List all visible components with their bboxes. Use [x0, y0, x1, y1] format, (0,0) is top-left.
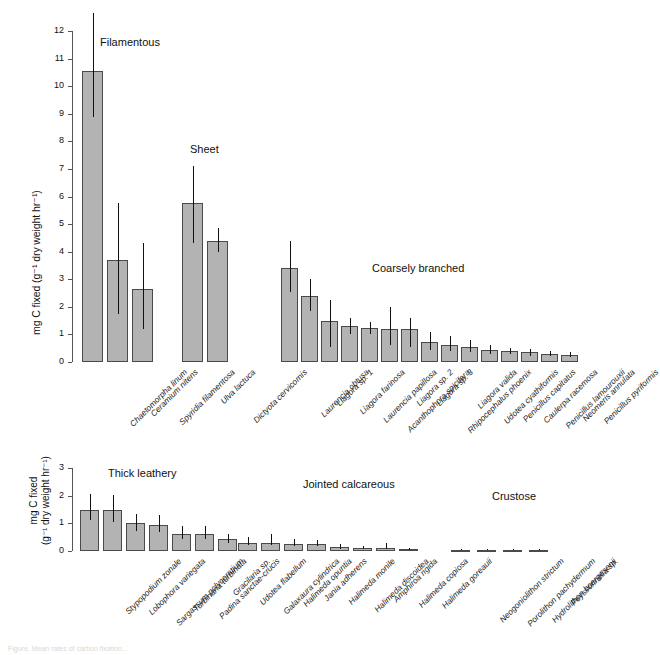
y-axis-tick-label: 7 [46, 164, 64, 173]
error-bar [218, 228, 219, 251]
error-bar [461, 549, 462, 550]
error-bar [205, 526, 206, 539]
y-axis-tick-label: 6 [46, 192, 64, 201]
y-axis-tick [68, 468, 72, 469]
error-bar [570, 352, 571, 357]
error-bar [136, 514, 137, 531]
y-axis-tick-label: 0 [46, 546, 64, 555]
y-axis-tick-label: 12 [46, 26, 64, 35]
y-axis-tick [68, 496, 72, 497]
error-bar [430, 332, 431, 350]
error-bar [93, 13, 94, 116]
error-bar [271, 534, 272, 546]
y-axis-title-line2: (g⁻¹ dry weight hr⁻¹) [40, 456, 52, 545]
error-bar [370, 322, 371, 334]
y-axis-tick [68, 334, 72, 335]
error-bar [350, 318, 351, 334]
y-axis-tick-label: 4 [46, 247, 64, 256]
error-bar [487, 549, 488, 550]
error-bar [386, 543, 387, 549]
y-axis-tick [68, 197, 72, 198]
figure-caption: Figure. Mean rates of carbon fixation... [8, 645, 128, 652]
y-axis-tick-label: 1 [46, 329, 64, 338]
y-axis-title-line1: mg C fixed [28, 456, 40, 545]
y-axis-tick [68, 279, 72, 280]
y-axis-line [72, 31, 73, 362]
y-axis-tick [68, 362, 72, 363]
y-axis-tick-label: 0 [46, 357, 64, 366]
error-bar [317, 540, 318, 546]
error-bar [450, 336, 451, 351]
y-axis-tick [68, 252, 72, 253]
y-axis-tick [68, 551, 72, 552]
y-axis-tick-label: 9 [46, 109, 64, 118]
group-title: Thick leathery [108, 467, 176, 479]
error-bar [294, 539, 295, 546]
error-bar [143, 243, 144, 329]
y-axis-tick [68, 224, 72, 225]
y-axis-tick-label: 11 [46, 54, 64, 63]
error-bar [470, 340, 471, 351]
y-axis-tick [68, 86, 72, 87]
y-axis-tick [68, 307, 72, 308]
y-axis-tick [68, 31, 72, 32]
group-title: Crustose [492, 490, 536, 502]
error-bar [363, 546, 364, 549]
y-axis-title: mg C fixed(g⁻¹ dry weight hr⁻¹) [28, 456, 52, 545]
error-bar [539, 549, 540, 550]
y-axis-tick-label: 2 [46, 302, 64, 311]
error-bar [340, 544, 341, 548]
group-title: Sheet [190, 143, 219, 155]
error-bar [182, 526, 183, 540]
y-axis-title: mg C fixed (g⁻¹ dry weight hr⁻¹) [30, 190, 42, 335]
error-bar [410, 318, 411, 347]
error-bar [510, 348, 511, 355]
y-axis-tick-label: 5 [46, 219, 64, 228]
error-bar [390, 307, 391, 345]
error-bar [90, 494, 91, 520]
error-bar [310, 279, 311, 311]
y-axis-tick [68, 169, 72, 170]
error-bar [193, 166, 194, 243]
y-axis-tick [68, 141, 72, 142]
error-bar [550, 351, 551, 357]
error-bar [290, 241, 291, 292]
group-title: Jointed calcareous [303, 478, 395, 490]
chart-panel-bottom: 0123mg C fixed(g⁻¹ dry weight hr⁻¹)Thick… [0, 450, 597, 655]
y-axis-tick [68, 523, 72, 524]
error-bar [530, 349, 531, 356]
y-axis-tick [68, 114, 72, 115]
error-bar [113, 495, 114, 522]
group-title: Filamentous [100, 36, 160, 48]
error-bar [513, 549, 514, 550]
error-bar [409, 548, 410, 550]
error-bar [228, 534, 229, 543]
y-axis-line [72, 468, 73, 551]
y-axis-tick-label: 3 [46, 274, 64, 283]
y-axis-tick-label: 10 [46, 81, 64, 90]
bar [207, 241, 228, 362]
group-title: Coarsely branched [372, 262, 464, 274]
x-axis-category-label: Dictyota cervicornis [251, 367, 309, 425]
y-axis-tick [68, 59, 72, 60]
error-bar [330, 300, 331, 347]
chart-panel-top: 0123456789101112mg C fixed (g⁻¹ dry weig… [0, 0, 597, 450]
error-bar [118, 203, 119, 313]
error-bar [159, 515, 160, 532]
y-axis-tick-label: 8 [46, 136, 64, 145]
error-bar [248, 537, 249, 546]
error-bar [490, 345, 491, 353]
